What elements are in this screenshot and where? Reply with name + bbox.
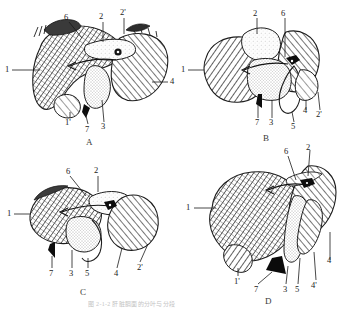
panel-c-label-7: 7 <box>49 269 53 278</box>
panel-a-label-1-prime: 1' <box>65 118 71 127</box>
panel-d-label-1: 1 <box>186 203 190 212</box>
panel-c-letter: C <box>80 287 86 297</box>
panel-a-label-2-prime: 2' <box>120 8 126 17</box>
panel-b-label-6: 6 <box>281 9 285 18</box>
panel-c-label-2: 2 <box>94 166 98 175</box>
panel-a-label-2: 2 <box>99 12 103 21</box>
panel-d-drawing <box>194 150 336 284</box>
panel-d-label-2: 2 <box>306 143 310 152</box>
panel-d-label-4: 4 <box>327 256 331 265</box>
panel-c-label-1: 1 <box>7 209 11 218</box>
panel-b-label-2: 2 <box>253 9 257 18</box>
figure-caption: 图 2-1-2 肝脏膈面的分叶与分段 <box>88 299 318 308</box>
panel-b-label-1: 1 <box>181 65 185 74</box>
panel-a-drawing <box>12 18 168 124</box>
panel-d-label-1-prime: 1' <box>234 277 240 286</box>
panel-c-drawing <box>14 176 158 268</box>
panel-c-label-5: 5 <box>85 269 89 278</box>
panel-a-label-4: 4 <box>170 77 174 86</box>
panel-c-label-6: 6 <box>66 167 70 176</box>
panel-c-label-3: 3 <box>69 269 73 278</box>
panel-d-label-4-prime: 4' <box>311 281 317 290</box>
panel-a-letter: A <box>86 137 93 147</box>
panel-c-label-4: 4 <box>114 269 118 278</box>
panel-d-label-5: 5 <box>295 285 299 294</box>
panel-b-label-4: 4 <box>303 106 307 115</box>
panel-a-label-6: 6 <box>64 13 68 22</box>
panel-a-label-3: 3 <box>101 122 105 131</box>
panel-b-label-3: 3 <box>269 118 273 127</box>
panel-b-letter: B <box>263 133 269 143</box>
panel-a-label-7: 7 <box>85 125 89 134</box>
panel-d-label-3: 3 <box>283 285 287 294</box>
panel-b-label-7: 7 <box>255 118 259 127</box>
panel-d-label-6: 6 <box>284 147 288 156</box>
panel-c-label-2-prime: 2' <box>137 263 143 272</box>
panel-a-label-1: 1 <box>5 65 9 74</box>
panel-b-drawing <box>188 18 320 122</box>
anatomy-figure-panel-grid: 1 6 2 2' 4 1' 7 3 A 2 6 1 7 3 5 4 2' B 6… <box>0 0 345 309</box>
panel-b-label-2-prime: 2' <box>316 110 322 119</box>
panel-b-label-5: 5 <box>291 122 295 131</box>
panel-d-label-7: 7 <box>254 285 258 294</box>
figure-drawing-canvas <box>0 0 345 309</box>
